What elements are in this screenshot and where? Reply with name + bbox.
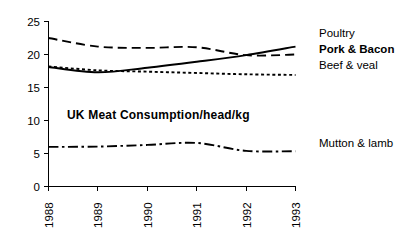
legend-item-beef-and-veal: Beef & veal [319, 59, 378, 71]
line-chart: 25 20 15 10 5 0 1988 1989 1990 1991 1992… [0, 0, 420, 232]
y-tick-label: 10 [27, 115, 40, 127]
x-tick-label: 1988 [43, 202, 55, 228]
y-tick-label: 20 [27, 49, 40, 61]
y-tick-label: 0 [34, 181, 40, 193]
y-tick-label: 5 [34, 148, 40, 160]
legend-item-pork-and-bacon: Pork & Bacon [319, 43, 394, 55]
x-tick-label: 1993 [290, 202, 302, 228]
legend-item-poultry: Poultry [319, 27, 355, 39]
y-tick-label: 25 [27, 16, 40, 28]
x-tick-label: 1989 [92, 202, 104, 228]
x-tick-label: 1990 [142, 202, 154, 228]
x-tick-label: 1992 [241, 202, 253, 228]
chart-title: UK Meat Consumption/head/kg [67, 108, 250, 122]
y-tick-label: 15 [27, 82, 40, 94]
chart-container: 25 20 15 10 5 0 1988 1989 1990 1991 1992… [0, 0, 420, 232]
legend-item-mutton-and-lamb: Mutton & lamb [319, 137, 393, 149]
x-tick-label: 1991 [191, 202, 203, 228]
